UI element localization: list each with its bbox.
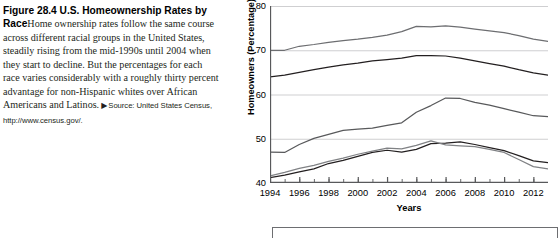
chart-legend [272, 227, 558, 238]
series-line-series-3 [270, 98, 548, 152]
figure-caption: Figure 28.4 U.S. Homeownership Rates by … [3, 4, 221, 127]
x-tick-label: 2012 [523, 188, 544, 198]
series-line-series-5 [270, 141, 548, 176]
series-line-series-2 [270, 56, 548, 77]
x-tick-label: 2004 [406, 188, 427, 198]
x-tick-label: 2006 [435, 188, 456, 198]
y-tick-label: 80 [256, 1, 266, 11]
y-tick-label: 50 [256, 134, 266, 144]
x-tick-label: 1996 [289, 188, 310, 198]
figure-caption-body: Home ownership rates follow the same cou… [3, 18, 219, 110]
x-tick-label: 1998 [318, 188, 339, 198]
gridlines [270, 7, 548, 140]
y-axis-tick-labels: 4050607080 [228, 0, 266, 190]
y-tick-label: 70 [256, 45, 266, 55]
x-tick-label: 1994 [260, 188, 281, 198]
line-chart: Homeowners (Percentage) 4050607080 19941… [228, 0, 558, 238]
series-lines [270, 26, 548, 178]
plot-svg [270, 6, 548, 183]
triangle-marker-icon: ▶ [99, 101, 108, 110]
x-axis-tick-labels: 1994199619982000200220042006200820102012 [270, 188, 548, 202]
x-tick-label: 2000 [347, 188, 368, 198]
y-tick-label: 40 [256, 178, 266, 188]
x-tick-label: 2010 [494, 188, 515, 198]
figure-root: Figure 28.4 U.S. Homeownership Rates by … [0, 0, 558, 238]
x-tick-label: 2008 [464, 188, 485, 198]
series-line-series-1 [270, 26, 548, 50]
y-tick-label: 60 [256, 90, 266, 100]
x-tick-label: 2002 [377, 188, 398, 198]
x-axis-title: Years [270, 203, 548, 213]
plot-area [270, 6, 548, 183]
